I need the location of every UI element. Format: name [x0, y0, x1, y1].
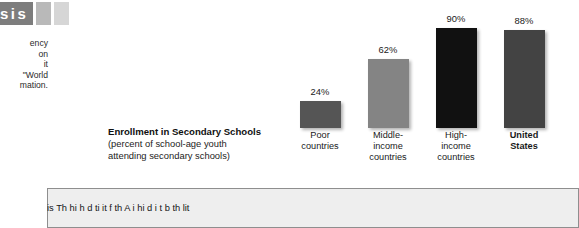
- bar-value-label: 90%: [428, 13, 484, 24]
- bar-chart: Enrollment in Secondary Schools (percent…: [0, 0, 575, 175]
- chart-title: Enrollment in Secondary Schools: [108, 126, 273, 138]
- bar-category-line: income: [357, 141, 419, 152]
- chart-subtitle-line: (percent of school-age youth: [108, 138, 273, 150]
- bar-category-label: Middle- income countries: [357, 130, 419, 163]
- bar-category-label: Poor countries: [289, 130, 351, 152]
- bar-category-line: High-: [425, 130, 487, 141]
- bar-value-label: 62%: [360, 44, 416, 55]
- bar-category-line: income: [425, 141, 487, 152]
- bar-group-poor-countries: 24% Poor countries: [292, 16, 348, 128]
- bottom-note-text: is Th hi h d ti it f th A i hi d i t b t…: [47, 203, 571, 214]
- bar-group-middle-income-countries: 62% Middle- income countries: [360, 16, 416, 128]
- bar-category-label: High- income countries: [425, 130, 487, 163]
- bar-category-line: Middle-: [357, 130, 419, 141]
- bar-category-line: United: [493, 130, 555, 141]
- bar-category-line: Poor: [289, 130, 351, 141]
- chart-plot-area: 24% Poor countries 62% Middle- income co…: [288, 8, 572, 175]
- bar-category-line: countries: [357, 152, 419, 163]
- bar-category-label: United States: [493, 130, 555, 152]
- bar-category-line: States: [493, 141, 555, 152]
- bar-category-line: countries: [289, 141, 351, 152]
- bar-group-united-states: 88% United States: [496, 16, 552, 128]
- chart-caption: Enrollment in Secondary Schools (percent…: [108, 126, 273, 162]
- bar-group-high-income-countries: 90% High- income countries: [428, 16, 484, 128]
- bar-category-line: countries: [425, 152, 487, 163]
- bar-value-label: 24%: [292, 86, 348, 97]
- bar-rect: [504, 30, 545, 128]
- bar-rect: [300, 101, 341, 128]
- bar-value-label: 88%: [496, 15, 552, 26]
- bar-rect: [368, 59, 409, 128]
- chart-subtitle-line: attending secondary schools): [108, 150, 273, 162]
- bar-rect: [436, 28, 477, 128]
